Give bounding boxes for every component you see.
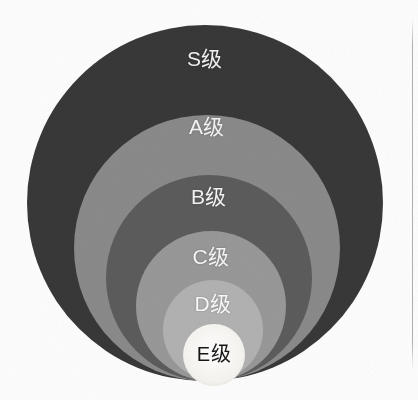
circle-label-s: S级 bbox=[0, 42, 410, 72]
circle-label-b: B级 bbox=[0, 180, 418, 210]
circle-label-e: E级 bbox=[0, 338, 418, 367]
circle-label-a: A级 bbox=[0, 110, 414, 140]
figure-root: S级 A级 B级 C级 D级 E级 bbox=[0, 0, 418, 400]
scan-edge-artifact bbox=[412, 18, 413, 370]
circle-label-c: C级 bbox=[0, 240, 418, 270]
circle-label-d: D级 bbox=[0, 287, 418, 317]
